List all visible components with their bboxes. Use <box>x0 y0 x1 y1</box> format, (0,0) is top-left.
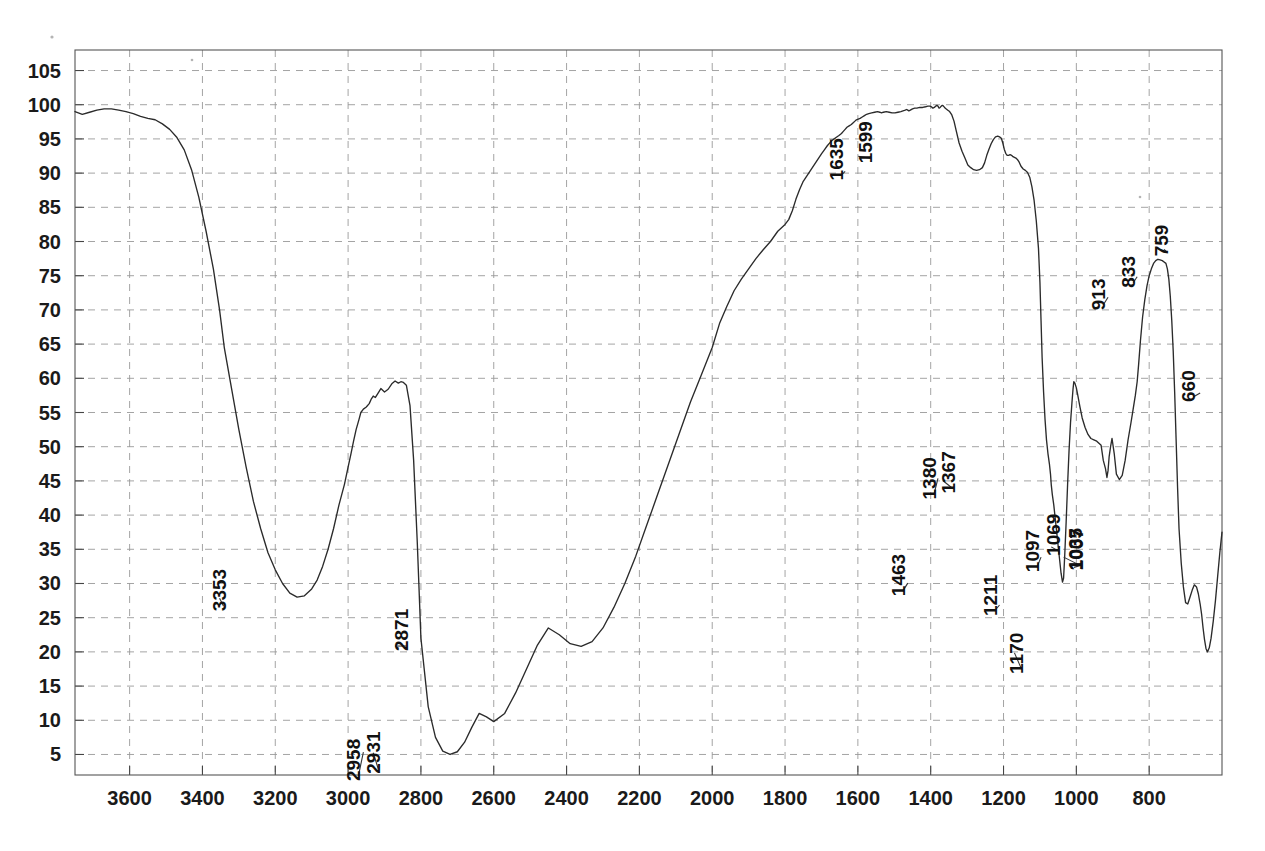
peak-label-759: 759 <box>1151 225 1172 257</box>
peak-label-3353: 3353 <box>209 569 230 611</box>
x-tick-label: 2000 <box>690 787 735 809</box>
peak-label-1367: 1367 <box>938 451 959 493</box>
x-axis-tick-labels: 3600340032003000280026002400220020001800… <box>107 787 1165 809</box>
y-tick-label: 60 <box>39 367 61 389</box>
y-tick-label: 85 <box>39 196 61 218</box>
peak-annotation: 1007 <box>1066 528 1087 570</box>
peak-annotation: 1463 <box>888 554 909 596</box>
peak-label-1211: 1211 <box>980 574 1001 616</box>
y-tick-label: 100 <box>28 94 61 116</box>
peak-label-660: 660 <box>1178 370 1199 402</box>
chart-background <box>0 0 1265 851</box>
peak-label-1463: 1463 <box>888 554 909 596</box>
peak-label-1599: 1599 <box>855 121 876 163</box>
y-tick-label: 50 <box>39 436 61 458</box>
x-tick-label: 1800 <box>763 787 808 809</box>
peak-annotation: 759 <box>1151 225 1172 257</box>
peak-label-1007: 1007 <box>1066 528 1087 570</box>
peak-label-1097: 1097 <box>1022 530 1043 572</box>
peak-label-833: 833 <box>1118 256 1139 288</box>
x-tick-label: 800 <box>1132 787 1165 809</box>
y-tick-label: 40 <box>39 504 61 526</box>
y-tick-label: 90 <box>39 162 61 184</box>
y-tick-label: 45 <box>39 470 61 492</box>
peak-label-2931: 2931 <box>363 731 384 774</box>
peak-annotation: 1211 <box>980 574 1001 616</box>
peak-annotation: 1635 <box>826 138 847 181</box>
y-tick-label: 65 <box>39 333 61 355</box>
peak-annotation: 1097 <box>1022 530 1043 572</box>
y-tick-label: 105 <box>28 60 61 82</box>
y-tick-label: 5 <box>50 743 61 765</box>
y-tick-label: 25 <box>39 607 61 629</box>
peak-label-913: 913 <box>1088 279 1109 311</box>
peak-annotation: 1367 <box>938 451 959 493</box>
y-tick-label: 15 <box>39 675 61 697</box>
x-tick-label: 2200 <box>617 787 662 809</box>
y-tick-label: 95 <box>39 128 61 150</box>
peak-label-1635: 1635 <box>826 138 847 181</box>
y-tick-label: 35 <box>39 538 61 560</box>
x-tick-label: 2800 <box>399 787 444 809</box>
scan-speck <box>191 59 194 62</box>
y-tick-label: 70 <box>39 299 61 321</box>
peak-annotation: 1170 <box>1006 633 1027 674</box>
peak-annotation: 2958 <box>343 739 364 781</box>
y-tick-label: 80 <box>39 231 61 253</box>
peak-annotation: 913 <box>1088 279 1109 311</box>
peak-label-2958: 2958 <box>343 739 364 781</box>
x-tick-label: 1400 <box>908 787 953 809</box>
peak-annotation: 3353 <box>209 569 230 611</box>
x-tick-label: 3600 <box>107 787 152 809</box>
y-tick-label: 55 <box>39 402 61 424</box>
peak-label-1170: 1170 <box>1006 633 1027 674</box>
ir-spectrum-chart: 1051009590858075706560555045403530252015… <box>0 0 1265 851</box>
x-tick-label: 3400 <box>180 787 225 809</box>
peak-annotation: 833 <box>1118 256 1139 288</box>
x-tick-label: 3200 <box>253 787 298 809</box>
peak-label-2871: 2871 <box>391 608 412 651</box>
scan-speck <box>1139 196 1142 199</box>
scan-speck <box>50 35 53 38</box>
y-tick-label: 10 <box>39 709 61 731</box>
peak-label-1069: 1069 <box>1043 514 1064 556</box>
y-tick-label: 30 <box>39 572 61 594</box>
peak-annotation: 1069 <box>1043 514 1064 556</box>
x-tick-label: 2600 <box>471 787 516 809</box>
x-tick-label: 1000 <box>1054 787 1099 809</box>
peak-annotation: 660 <box>1178 370 1200 402</box>
x-tick-label: 3000 <box>326 787 371 809</box>
peak-annotation: 2931 <box>363 731 384 774</box>
x-tick-label: 1200 <box>981 787 1026 809</box>
peak-annotation: 1599 <box>855 121 876 163</box>
spectrum-plot: 1051009590858075706560555045403530252015… <box>0 0 1265 851</box>
x-tick-label: 1600 <box>836 787 881 809</box>
y-tick-label: 20 <box>39 641 61 663</box>
x-tick-label: 2400 <box>544 787 589 809</box>
peak-annotation: 2871 <box>391 608 412 651</box>
y-tick-label: 75 <box>39 265 61 287</box>
